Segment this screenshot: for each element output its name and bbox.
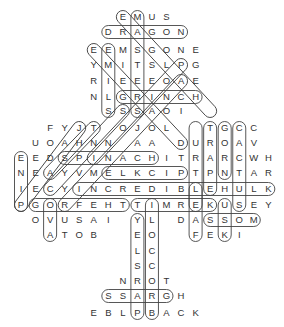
- grid-letter[interactable]: J: [130, 121, 144, 135]
- grid-letter[interactable]: C: [145, 244, 159, 258]
- grid-letter[interactable]: C: [232, 151, 246, 165]
- grid-letter[interactable]: N: [174, 43, 188, 57]
- grid-letter[interactable]: P: [72, 151, 86, 165]
- grid-letter[interactable]: S: [116, 289, 130, 303]
- grid-letter[interactable]: A: [130, 289, 144, 303]
- grid-letter[interactable]: R: [203, 136, 217, 150]
- grid-letter[interactable]: N: [116, 274, 130, 288]
- grid-letter[interactable]: R: [218, 151, 232, 165]
- grid-letter[interactable]: R: [87, 74, 101, 88]
- grid-letter[interactable]: U: [58, 213, 72, 227]
- grid-letter[interactable]: P: [174, 58, 188, 72]
- grid-letter[interactable]: E: [29, 166, 43, 180]
- grid-letter[interactable]: R: [145, 289, 159, 303]
- grid-letter[interactable]: T: [116, 198, 130, 212]
- grid-letter[interactable]: Y: [87, 58, 101, 72]
- grid-letter[interactable]: G: [29, 198, 43, 212]
- grid-letter[interactable]: S: [130, 259, 144, 273]
- grid-letter[interactable]: N: [87, 136, 101, 150]
- grid-letter[interactable]: T: [58, 228, 72, 242]
- grid-letter[interactable]: I: [160, 182, 174, 196]
- grid-letter[interactable]: I: [87, 151, 101, 165]
- grid-letter[interactable]: N: [101, 136, 115, 150]
- grid-letter[interactable]: L: [116, 306, 130, 320]
- grid-letter[interactable]: R: [130, 90, 144, 104]
- grid-letter[interactable]: H: [72, 136, 86, 150]
- grid-letter[interactable]: Y: [130, 213, 144, 227]
- grid-letter[interactable]: D: [43, 151, 57, 165]
- grid-letter[interactable]: O: [232, 213, 246, 227]
- grid-letter[interactable]: U: [145, 10, 159, 24]
- grid-letter[interactable]: U: [218, 198, 232, 212]
- grid-letter[interactable]: E: [87, 306, 101, 320]
- grid-letter[interactable]: S: [101, 289, 115, 303]
- grid-letter[interactable]: A: [160, 306, 174, 320]
- grid-letter[interactable]: E: [116, 10, 130, 24]
- grid-letter[interactable]: E: [130, 74, 144, 88]
- grid-letter[interactable]: I: [145, 90, 159, 104]
- grid-letter[interactable]: S: [232, 198, 246, 212]
- grid-letter[interactable]: N: [14, 166, 28, 180]
- grid-letter[interactable]: E: [101, 166, 115, 180]
- grid-letter[interactable]: A: [130, 136, 144, 150]
- grid-letter[interactable]: C: [101, 182, 115, 196]
- grid-letter[interactable]: Y: [58, 166, 72, 180]
- grid-letter[interactable]: G: [160, 289, 174, 303]
- grid-letter[interactable]: S: [203, 213, 217, 227]
- grid-letter[interactable]: L: [160, 58, 174, 72]
- grid-letter[interactable]: V: [43, 213, 57, 227]
- grid-letter[interactable]: O: [43, 198, 57, 212]
- grid-letter[interactable]: A: [116, 151, 130, 165]
- grid-letter[interactable]: O: [160, 25, 174, 39]
- grid-letter[interactable]: F: [43, 121, 57, 135]
- grid-letter[interactable]: E: [14, 151, 28, 165]
- grid-letter[interactable]: L: [247, 182, 261, 196]
- grid-letter[interactable]: H: [145, 151, 159, 165]
- grid-letter[interactable]: L: [189, 182, 203, 196]
- grid-letter[interactable]: R: [116, 25, 130, 39]
- grid-letter[interactable]: P: [130, 306, 144, 320]
- grid-letter[interactable]: S: [101, 104, 115, 118]
- grid-letter[interactable]: R: [130, 274, 144, 288]
- grid-letter[interactable]: E: [116, 74, 130, 88]
- grid-letter[interactable]: G: [189, 58, 203, 72]
- grid-letter[interactable]: Y: [58, 121, 72, 135]
- grid-letter[interactable]: G: [116, 90, 130, 104]
- grid-letter[interactable]: E: [29, 182, 43, 196]
- grid-letter[interactable]: G: [145, 25, 159, 39]
- grid-letter[interactable]: P: [14, 198, 28, 212]
- grid-letter[interactable]: I: [160, 151, 174, 165]
- grid-letter[interactable]: A: [174, 74, 188, 88]
- grid-letter[interactable]: H: [261, 151, 275, 165]
- grid-letter[interactable]: V: [72, 166, 86, 180]
- grid-letter[interactable]: O: [145, 228, 159, 242]
- grid-letter[interactable]: S: [130, 43, 144, 57]
- grid-letter[interactable]: S: [116, 104, 130, 118]
- grid-letter[interactable]: A: [43, 166, 57, 180]
- grid-letter[interactable]: B: [101, 306, 115, 320]
- grid-letter[interactable]: A: [58, 136, 72, 150]
- grid-letter[interactable]: I: [101, 213, 115, 227]
- grid-letter[interactable]: E: [189, 43, 203, 57]
- grid-letter[interactable]: K: [130, 166, 144, 180]
- grid-letter[interactable]: R: [189, 151, 203, 165]
- grid-letter[interactable]: A: [189, 213, 203, 227]
- grid-letter[interactable]: I: [145, 198, 159, 212]
- grid-letter[interactable]: A: [43, 228, 57, 242]
- grid-letter[interactable]: I: [174, 104, 188, 118]
- grid-letter[interactable]: R: [261, 166, 275, 180]
- grid-letter[interactable]: T: [189, 166, 203, 180]
- grid-letter[interactable]: L: [101, 90, 115, 104]
- grid-letter[interactable]: N: [101, 151, 115, 165]
- grid-letter[interactable]: L: [116, 166, 130, 180]
- grid-letter[interactable]: A: [203, 151, 217, 165]
- grid-letter[interactable]: F: [72, 198, 86, 212]
- grid-letter[interactable]: I: [116, 58, 130, 72]
- grid-letter[interactable]: L: [160, 121, 174, 135]
- grid-letter[interactable]: C: [174, 90, 188, 104]
- grid-letter[interactable]: T: [160, 274, 174, 288]
- grid-letter[interactable]: K: [261, 182, 275, 196]
- grid-letter[interactable]: B: [87, 228, 101, 242]
- grid-letter[interactable]: W: [247, 151, 261, 165]
- grid-letter[interactable]: E: [130, 182, 144, 196]
